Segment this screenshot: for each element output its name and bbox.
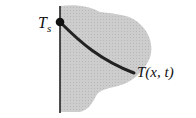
surface-temperature-label: Ts <box>38 14 51 34</box>
temperature-profile-label: T(x, t) <box>137 64 174 81</box>
heat-diffusion-diagram <box>0 0 196 118</box>
surface-temperature-dot <box>56 18 65 27</box>
surface-temperature-subscript: s <box>47 22 51 34</box>
